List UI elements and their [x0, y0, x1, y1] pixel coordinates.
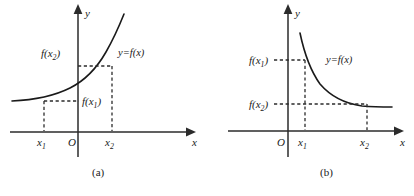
- panel-a-caption: (a): [92, 166, 105, 179]
- panel-b-tick-label-x2: x2: [359, 136, 369, 151]
- panel-b-value-label-fx1: f(x1): [249, 54, 269, 69]
- panel-a: y x O x1 x2 f(x2) f(x1) y=f(x) (a): [10, 4, 197, 179]
- panel-a-curve-label: y=f(x): [117, 47, 145, 59]
- panel-b-x-axis-label: x: [399, 136, 405, 148]
- panel-b-x-axis-arrow-icon: [394, 127, 404, 136]
- panel-b-function-curve: [300, 33, 392, 107]
- panel-a-origin-label: O: [68, 136, 76, 148]
- panel-b-origin-label: O: [277, 136, 285, 148]
- panel-b-y-axis-label: y: [294, 7, 300, 19]
- panel-a-y-axis-arrow-icon: [74, 4, 83, 14]
- figure-container: y x O x1 x2 f(x2) f(x1) y=f(x) (a): [0, 0, 414, 196]
- panel-a-function-curve: [12, 14, 124, 101]
- panel-a-value-label-fx1: f(x1): [82, 95, 102, 110]
- panel-a-tick-label-x2: x2: [104, 136, 114, 151]
- panel-b-curve-label: y=f(x): [325, 54, 353, 66]
- panel-b: y x O x1 x2 f(x1) f(x2) y=f(x) (b): [228, 4, 405, 179]
- diagram-svg: y x O x1 x2 f(x2) f(x1) y=f(x) (a): [0, 0, 414, 196]
- panel-b-tick-label-x1: x1: [297, 136, 307, 151]
- panel-a-tick-label-x1: x1: [36, 136, 46, 151]
- panel-b-value-label-fx2: f(x2): [249, 98, 269, 113]
- panel-b-caption: (b): [320, 166, 333, 179]
- panel-a-x-axis-label: x: [191, 136, 197, 148]
- panel-a-value-label-fx2: f(x2): [41, 47, 61, 62]
- panel-b-y-axis-arrow-icon: [284, 4, 293, 14]
- panel-a-y-axis-label: y: [84, 7, 90, 19]
